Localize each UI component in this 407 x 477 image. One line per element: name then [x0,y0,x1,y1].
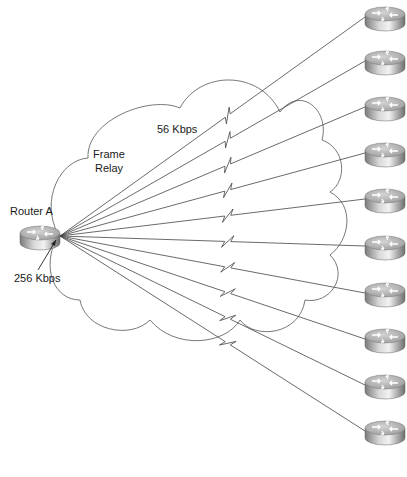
router-icon [365,7,405,31]
hub-link-speed-label: 256 Kbps [14,272,60,285]
hub-router-label: Router A [10,205,53,218]
spoke-links [60,17,365,431]
router-icon [365,329,405,353]
spoke-link-speed-label: 56 Kbps [157,123,197,136]
pvc-link-9 [60,236,365,385]
frame-relay-diagram: Router A 256 Kbps Frame Relay 56 Kbps [0,0,407,477]
pvc-link-10 [60,236,365,431]
cloud-label-frame: Frame [92,148,126,161]
router-icon [365,236,405,260]
router-icon [365,189,405,213]
router-icon [365,97,405,121]
router-icon [365,421,405,445]
pvc-link-6 [60,236,365,248]
frame-relay-cloud [50,80,347,341]
pvc-link-5 [60,199,365,236]
router-icon [365,283,405,307]
hub-router-icon [20,226,60,250]
pvc-link-8 [60,236,365,339]
diagram-canvas [0,0,407,477]
router-icon [365,375,405,399]
router-icon [365,143,405,167]
cloud-label-relay: Relay [92,162,126,175]
router-icon [365,51,405,75]
